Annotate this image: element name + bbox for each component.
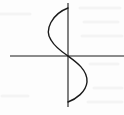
- s-curve-diagram: [0, 0, 124, 115]
